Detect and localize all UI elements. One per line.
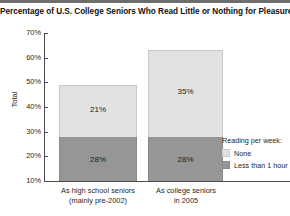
y-tick-mark bbox=[44, 33, 48, 34]
legend-item-label: Less than 1 hour bbox=[234, 161, 288, 170]
y-tick-label: 20% bbox=[26, 152, 41, 160]
y-tick-label: 60% bbox=[26, 54, 41, 62]
bar-segment-less-than-1-hour[interactable]: 28% bbox=[59, 137, 137, 181]
y-tick-mark bbox=[44, 181, 48, 182]
y-tick-mark bbox=[44, 107, 48, 108]
y-tick-mark bbox=[44, 156, 48, 157]
x-axis-category-label: As high school seniors (mainly pre-2002) bbox=[46, 186, 150, 205]
bar-segment-none[interactable]: 35% bbox=[148, 50, 223, 136]
bar-segment-label: 28% bbox=[149, 154, 222, 163]
bar-stack[interactable]: 35% 28% bbox=[148, 50, 223, 181]
x-axis-baseline bbox=[44, 181, 290, 182]
bar-segment-label: 21% bbox=[60, 105, 136, 114]
legend-item-less-than-1-hour[interactable]: Less than 1 hour bbox=[222, 161, 290, 170]
x-axis-category-line: As college seniors bbox=[146, 186, 226, 196]
chart-figure: Percentage of U.S. College Seniors Who R… bbox=[0, 0, 290, 216]
y-tick-label: 30% bbox=[26, 128, 41, 136]
x-axis-category-line: As high school seniors bbox=[46, 186, 150, 196]
legend-swatch-icon bbox=[222, 161, 230, 169]
legend-item-none[interactable]: None bbox=[222, 149, 290, 158]
x-axis-category-label: As college seniors in 2005 bbox=[146, 186, 226, 205]
legend-title: Reading per week: bbox=[222, 136, 290, 145]
bar-segment-none[interactable]: 21% bbox=[59, 85, 137, 137]
legend-swatch-icon bbox=[222, 149, 230, 157]
bar-stack[interactable]: 21% 28% bbox=[59, 85, 137, 181]
y-tick-label: 10% bbox=[26, 177, 41, 185]
bar-segment-less-than-1-hour[interactable]: 28% bbox=[148, 137, 223, 181]
legend-item-label: None bbox=[234, 149, 251, 158]
x-axis-category-line: (mainly pre-2002) bbox=[46, 196, 150, 206]
y-tick-mark bbox=[44, 132, 48, 133]
y-tick-label: 40% bbox=[26, 103, 41, 111]
bar-segment-label: 28% bbox=[60, 154, 136, 163]
y-axis-title: Total bbox=[10, 80, 19, 120]
chart-legend: Reading per week: None Less than 1 hour bbox=[222, 136, 290, 173]
plot-area: Total 70% 60% 50% 40% 30% 20% 10% 21% 28… bbox=[0, 0, 290, 216]
y-tick-mark bbox=[44, 82, 48, 83]
y-tick-mark bbox=[44, 58, 48, 59]
y-tick-label: 50% bbox=[26, 78, 41, 86]
x-axis-category-line: in 2005 bbox=[146, 196, 226, 206]
y-tick-label: 70% bbox=[26, 29, 41, 37]
bar-segment-label: 35% bbox=[149, 86, 222, 95]
